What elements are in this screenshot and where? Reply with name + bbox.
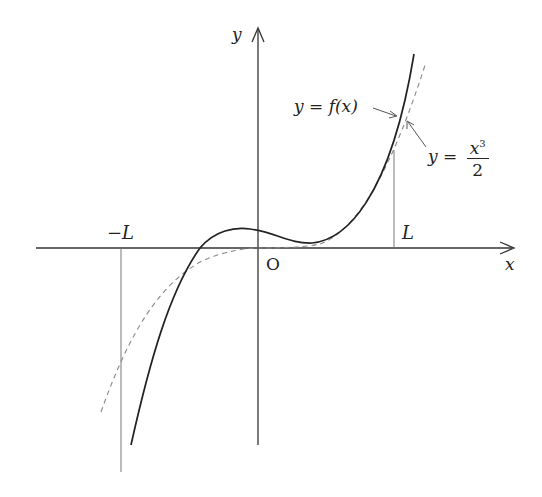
y-axis-label: y [232,24,242,44]
diagram-canvas [0,0,542,497]
cubic-curve-label: y = x3 2 [428,134,489,181]
cubic-denominator: 2 [472,159,483,181]
neg-L-label: −L [107,222,134,243]
origin-label: O [266,254,280,274]
cubic-curve-dashed [101,62,426,412]
cubic-label-pointer [408,122,426,147]
x-axis-label: x [505,254,515,274]
cubic-fraction: x3 2 [467,134,489,181]
cubic-label-prefix: y = [428,146,457,166]
f-curve-solid [131,54,414,445]
pos-L-label: L [402,222,414,243]
f-label-pointer [373,108,396,116]
cubic-exponent: 3 [479,138,485,149]
cubic-numerator: x [470,138,480,158]
f-curve-label: y = f(x) [294,96,358,116]
